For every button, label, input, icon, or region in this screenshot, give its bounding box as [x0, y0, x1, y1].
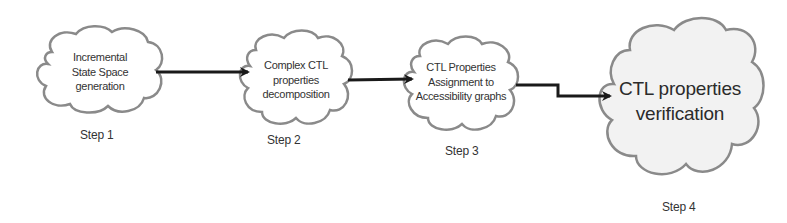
arrow-step2-to-step3: [348, 79, 412, 80]
node-step2-line2: properties: [273, 73, 319, 88]
node-step3-line2: Assignment to: [428, 75, 494, 90]
step2-label: Step 2: [267, 133, 301, 147]
node-step3-line1: CTL Properties: [426, 60, 495, 75]
node-step1-line1: Incremental: [73, 50, 127, 65]
process-flow-diagram: Incremental State Space generation Compl…: [0, 0, 787, 223]
step4-label: Step 4: [662, 200, 696, 214]
step3-label: Step 3: [445, 144, 479, 158]
arrow-step3-to-step4: [516, 85, 610, 96]
node-step2-text: Complex CTL properties decomposition: [248, 50, 344, 110]
node-step1-line3: generation: [76, 79, 125, 94]
node-step1-line2: State Space: [72, 65, 129, 80]
node-step1-text: Incremental State Space generation: [50, 44, 150, 100]
node-step3-line3: Accessibility graphs: [416, 89, 507, 104]
node-step2-line1: Complex CTL: [264, 58, 328, 73]
node-step4-text: CTL properties verification: [608, 74, 752, 130]
node-step2-line3: decomposition: [262, 87, 329, 102]
node-step4-line1: CTL properties: [619, 77, 741, 102]
step1-label: Step 1: [80, 128, 114, 142]
node-step4-line2: verification: [636, 102, 724, 127]
node-step3-text: CTL Properties Assignment to Accessibili…: [404, 52, 518, 112]
